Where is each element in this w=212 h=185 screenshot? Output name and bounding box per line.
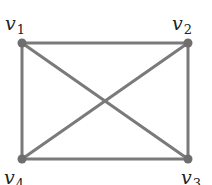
vertex-label-base: v	[172, 12, 183, 34]
vertex-label-subscript: 1	[17, 22, 25, 37]
vertex-v2	[184, 39, 193, 48]
vertex-label-v1: v1	[5, 14, 25, 33]
vertex-label-subscript: 2	[184, 22, 192, 37]
edges-group	[22, 43, 188, 159]
vertex-label-subscript: 3	[193, 176, 201, 185]
vertex-label-subscript: 4	[16, 176, 24, 185]
vertex-v1	[18, 39, 27, 48]
vertex-label-base: v	[181, 166, 192, 185]
vertex-label-base: v	[5, 12, 16, 34]
vertex-label-v4: v4	[4, 168, 24, 185]
vertex-label-base: v	[4, 166, 15, 185]
vertex-label-v2: v2	[172, 14, 192, 33]
vertex-v4	[18, 155, 27, 164]
vertex-v3	[184, 155, 193, 164]
vertex-label-v3: v3	[181, 168, 201, 185]
